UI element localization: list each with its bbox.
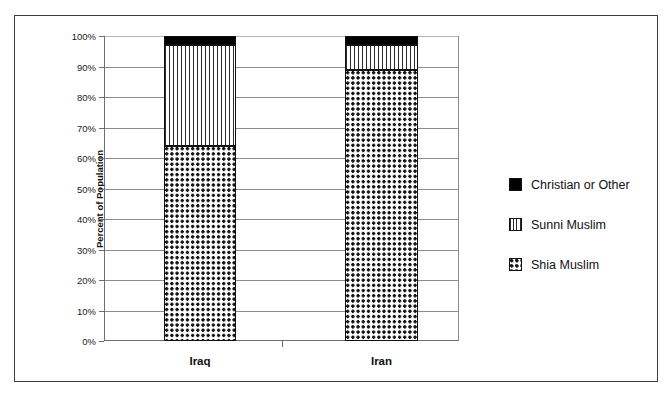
bar-segment-iran-christian-or-other[interactable] — [345, 36, 418, 45]
chart-legend: Christian or Other Sunni Muslim Shia Mus… — [509, 176, 659, 296]
legend-item-christian-or-other[interactable]: Christian or Other — [509, 176, 659, 193]
legend-swatch-christian-or-other-icon — [509, 178, 522, 191]
y-axis-line — [104, 36, 105, 341]
y-tick-label-80: 80% — [77, 92, 96, 103]
y-tick-label-30: 30% — [77, 244, 96, 255]
x-axis-category-divider-tick — [282, 341, 283, 347]
legend-label-shia-muslim: Shia Muslim — [531, 258, 599, 272]
y-tick-label-40: 40% — [77, 214, 96, 225]
chart-frame: Religious Composition of Iraq and Iran P… — [14, 15, 658, 382]
stacked-bar-iran[interactable] — [345, 36, 418, 341]
y-tick-0 — [99, 341, 104, 342]
y-tick-90 — [99, 67, 104, 68]
y-tick-30 — [99, 250, 104, 251]
bar-group-iraq: Iraq — [164, 36, 236, 341]
legend-swatch-shia-muslim-icon — [509, 258, 522, 271]
y-tick-label-100: 100% — [72, 31, 96, 42]
y-tick-40 — [99, 219, 104, 220]
y-tick-20 — [99, 280, 104, 281]
bar-group-iran: Iran — [345, 36, 418, 341]
y-tick-50 — [99, 189, 104, 190]
y-tick-80 — [99, 97, 104, 98]
legend-item-shia-muslim[interactable]: Shia Muslim — [509, 256, 659, 273]
y-tick-70 — [99, 128, 104, 129]
bar-segment-iran-shia-muslim[interactable] — [345, 70, 418, 341]
stacked-bar-iraq[interactable] — [164, 36, 236, 341]
y-tick-label-60: 60% — [77, 153, 96, 164]
y-axis-title: Percent of Population — [94, 149, 105, 247]
legend-item-sunni-muslim[interactable]: Sunni Muslim — [509, 216, 659, 233]
y-tick-label-70: 70% — [77, 122, 96, 133]
y-tick-label-10: 10% — [77, 305, 96, 316]
bar-segment-iraq-christian-or-other[interactable] — [164, 36, 236, 45]
plot-area: 100% 90% 80% 70% 60% 50% 40% 30% 20% 10%… — [104, 36, 459, 341]
legend-label-sunni-muslim: Sunni Muslim — [531, 218, 606, 232]
y-tick-label-50: 50% — [77, 183, 96, 194]
y-tick-label-90: 90% — [77, 61, 96, 72]
bar-segment-iraq-sunni-muslim[interactable] — [164, 45, 236, 146]
legend-label-christian-or-other: Christian or Other — [531, 178, 630, 192]
y-tick-label-20: 20% — [77, 275, 96, 286]
y-tick-100 — [99, 36, 104, 37]
bar-segment-iran-sunni-muslim[interactable] — [345, 45, 418, 69]
y-tick-10 — [99, 311, 104, 312]
x-axis-label-iraq: Iraq — [189, 355, 210, 367]
y-tick-60 — [99, 158, 104, 159]
x-axis-label-iran: Iran — [371, 355, 392, 367]
plot-right-border — [458, 36, 459, 341]
legend-swatch-sunni-muslim-icon — [509, 218, 522, 231]
y-tick-label-0: 0% — [82, 336, 96, 347]
bar-segment-iraq-shia-muslim[interactable] — [164, 146, 236, 341]
